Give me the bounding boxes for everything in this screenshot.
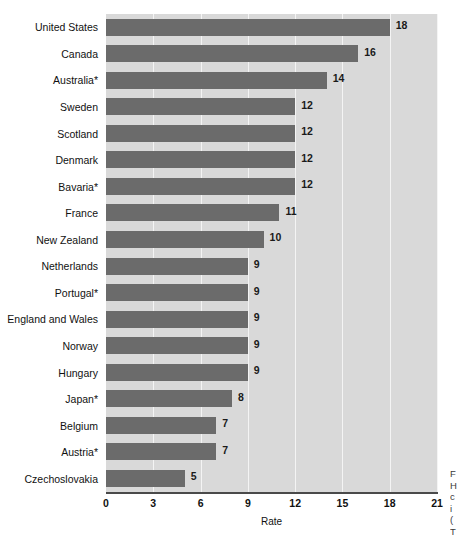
bar-value-label: 12 [301,150,313,167]
bar [106,284,248,301]
bar-row: 11 [106,200,437,227]
bar-row: 14 [106,67,437,94]
bar-row: 9 [106,253,437,280]
category-label: Netherlands [0,260,102,272]
bar-row: 10 [106,226,437,253]
side-caption-line: ( [450,514,468,526]
bar-value-label: 9 [254,362,260,379]
x-axis-line [106,492,438,494]
bar-row: 12 [106,173,437,200]
x-tick-label-15: 15 [337,497,349,509]
bar-row: 7 [106,439,437,466]
side-caption-line: c [450,491,468,503]
bar-row: 9 [106,280,437,307]
bar-value-label: 18 [396,17,408,34]
bar [106,337,248,354]
x-tick-label-9: 9 [245,497,251,509]
plot-area: 181614121212121110999998775 [106,14,437,492]
bar-row: 12 [106,120,437,147]
bar-value-label: 12 [301,123,313,140]
x-tick-label-6: 6 [198,497,204,509]
category-label: France [0,207,102,219]
category-label: Belgium [0,420,102,432]
bar-value-label: 14 [333,70,345,87]
bar [106,125,295,142]
x-tick-label-0: 0 [103,497,109,509]
bar [106,311,248,328]
side-caption-cutoff: FHci(T [450,468,468,538]
bar-value-label: 7 [222,415,228,432]
category-label: Canada [0,48,102,60]
side-caption-line: H [450,480,468,492]
category-label: Norway [0,340,102,352]
bar-row: 7 [106,412,437,439]
bar-value-label: 9 [254,309,260,326]
bar-row: 12 [106,94,437,121]
bar [106,72,327,89]
bar-value-label: 9 [254,336,260,353]
bar [106,98,295,115]
bar [106,443,216,460]
bar-row: 16 [106,41,437,68]
bar-row: 5 [106,465,437,492]
bar-value-label: 12 [301,97,313,114]
bar [106,45,358,62]
bar [106,390,232,407]
bar-row: 9 [106,333,437,360]
category-label: Japan* [0,393,102,405]
bar-value-label: 12 [301,176,313,193]
bar [106,204,279,221]
category-label: Austria* [0,446,102,458]
bar [106,364,248,381]
gridline-21 [437,14,438,492]
x-axis-label: Rate [106,516,437,527]
category-label: United States [0,21,102,33]
bar-row: 18 [106,14,437,41]
side-caption-line: T [450,526,468,538]
category-labels: United StatesCanadaAustralia*SwedenScotl… [0,14,102,492]
bar-row: 12 [106,147,437,174]
bar-row: 8 [106,386,437,413]
category-label: New Zealand [0,234,102,246]
category-label: Hungary [0,367,102,379]
bar-value-label: 8 [238,389,244,406]
category-label: England and Wales [0,313,102,325]
category-label: Scotland [0,128,102,140]
bar-value-label: 10 [270,229,282,246]
side-caption-line: i [450,503,468,515]
bar-value-label: 9 [254,256,260,273]
x-tick-label-3: 3 [150,497,156,509]
bar [106,231,264,248]
bar [106,151,295,168]
bar-value-label: 7 [222,442,228,459]
x-tick-label-21: 21 [431,497,443,509]
bar-row: 9 [106,359,437,386]
bar [106,178,295,195]
side-caption-line: F [450,468,468,480]
x-tick-label-12: 12 [289,497,301,509]
bar-value-label: 9 [254,283,260,300]
category-label: Bavaria* [0,181,102,193]
category-label: Portugal* [0,287,102,299]
bar [106,19,390,36]
x-tick-label-18: 18 [384,497,396,509]
bar [106,470,185,487]
category-label: Sweden [0,101,102,113]
bar [106,258,248,275]
horizontal-bar-chart: 181614121212121110999998775 United State… [0,0,468,554]
bar [106,417,216,434]
category-label: Australia* [0,74,102,86]
bar-value-label: 11 [285,203,296,220]
bar-value-label: 5 [191,468,197,485]
category-label: Denmark [0,154,102,166]
bar-row: 9 [106,306,437,333]
bar-value-label: 16 [364,44,376,61]
category-label: Czechoslovakia [0,473,102,485]
